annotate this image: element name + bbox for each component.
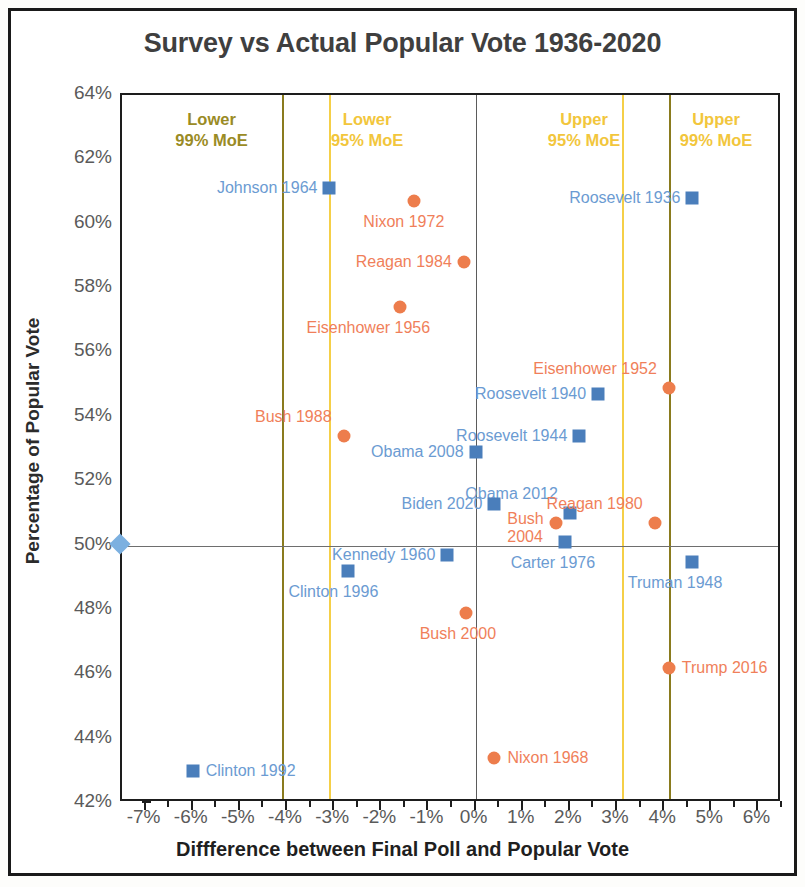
y-axis-tick-label: 48% [40, 597, 112, 619]
y-axis-tick-label: 56% [40, 339, 112, 361]
data-point[interactable] [559, 536, 572, 549]
data-point[interactable] [662, 381, 675, 394]
data-point-label: Carter 1976 [511, 554, 596, 572]
data-point[interactable] [394, 301, 407, 314]
data-point-label: Nixon 1968 [507, 749, 588, 767]
data-point-label: Roosevelt 1940 [475, 385, 586, 403]
data-point[interactable] [337, 430, 350, 443]
data-point[interactable] [186, 764, 199, 777]
data-point-label: Clinton 1992 [206, 762, 296, 780]
x-axis-minor-tick [450, 801, 452, 807]
data-point-label: Truman 1948 [628, 574, 723, 592]
data-point-label: Eisenhower 1956 [307, 319, 431, 337]
data-point[interactable] [460, 607, 473, 620]
data-point[interactable] [662, 661, 675, 674]
x-axis-minor-tick [497, 801, 499, 807]
y-axis-tick-label: 50% [40, 533, 112, 555]
data-point[interactable] [488, 497, 501, 510]
data-point[interactable] [573, 430, 586, 443]
data-point-label: Roosevelt 1944 [456, 427, 567, 445]
data-point-label: Kennedy 1960 [332, 546, 435, 564]
plot-area: Lower 99% MoELower 95% MoEUpper 95% MoEU… [120, 93, 780, 801]
moe-zone-label: Lower 99% MoE [132, 109, 292, 151]
data-point-label: Roosevelt 1936 [569, 189, 680, 207]
y-axis-tick-label: 42% [40, 790, 112, 812]
data-point-label: Reagan 1984 [356, 253, 452, 271]
x-axis-tick-mark [238, 801, 240, 810]
data-point-label: Bush 1988 [255, 408, 332, 426]
x-axis-tick-mark [285, 801, 287, 810]
data-point[interactable] [469, 446, 482, 459]
moe-zone-label: Lower 95% MoE [287, 109, 447, 151]
x-axis-tick-mark [709, 801, 711, 810]
moe-zone-label: Upper 99% MoE [636, 109, 796, 151]
x-axis-tick-mark [474, 801, 476, 810]
data-point-label: Nixon 1972 [363, 213, 444, 231]
y-axis-tick-label: 64% [40, 82, 112, 104]
x-axis-tick-mark [426, 801, 428, 810]
x-axis-minor-tick [780, 801, 782, 807]
data-point-label: Clinton 1996 [288, 583, 378, 601]
y-axis-tick-label: 62% [40, 146, 112, 168]
x-axis-minor-tick [639, 801, 641, 807]
data-point[interactable] [592, 388, 605, 401]
x-axis-minor-tick [591, 801, 593, 807]
y-axis-tick-label: 58% [40, 275, 112, 297]
data-point[interactable] [686, 555, 699, 568]
data-point-label: Bush 2004 [507, 510, 543, 546]
data-point[interactable] [408, 195, 421, 208]
x-axis-minor-tick [214, 801, 216, 807]
data-point-label: Eisenhower 1952 [533, 360, 657, 378]
x-axis-tick-mark [662, 801, 664, 810]
lower-99-moe [282, 95, 284, 799]
data-point[interactable] [457, 256, 470, 269]
data-point-label: Trump 2016 [682, 659, 768, 677]
x-axis-minor-tick [167, 801, 169, 807]
data-point-label: Obama 2008 [371, 443, 464, 461]
x-axis-tick-mark [379, 801, 381, 810]
y-axis-tick-label: 54% [40, 404, 112, 426]
data-point[interactable] [323, 182, 336, 195]
data-point[interactable] [648, 517, 661, 530]
data-point-label: Biden 2020 [401, 495, 482, 513]
chart-page: Survey vs Actual Popular Vote 1936-2020 … [0, 0, 805, 887]
x-axis-tick-mark [615, 801, 617, 810]
data-point[interactable] [488, 751, 501, 764]
x-axis-tick-mark [191, 801, 193, 810]
data-point[interactable] [549, 517, 562, 530]
data-point-label: Johnson 1964 [217, 179, 318, 197]
y-axis-tick-label: 60% [40, 211, 112, 233]
data-point[interactable] [342, 565, 355, 578]
data-point[interactable] [686, 191, 699, 204]
y-axis-tick-label: 46% [40, 661, 112, 683]
x-axis-minor-tick [733, 801, 735, 807]
y-axis-title: Percentage of Popular Vote [22, 161, 44, 721]
data-point-label: Bush 2000 [420, 625, 497, 643]
x-axis-tick-mark [332, 801, 334, 810]
y-axis-tick-label: 44% [40, 726, 112, 748]
data-point-label: Reagan 1980 [547, 495, 643, 513]
fifty-percent-line [122, 546, 778, 548]
x-axis-tick-mark [144, 801, 146, 810]
x-axis-tick-mark [756, 801, 758, 810]
x-axis-title: Diffference between Final Poll and Popul… [0, 838, 805, 861]
x-axis-tick-mark [568, 801, 570, 810]
y-axis-tick-label: 52% [40, 468, 112, 490]
x-axis-minor-tick [403, 801, 405, 807]
x-axis-minor-tick [356, 801, 358, 807]
x-axis-minor-tick [686, 801, 688, 807]
lower-95-moe [329, 95, 331, 799]
data-point[interactable] [441, 549, 454, 562]
x-axis-minor-tick [544, 801, 546, 807]
x-axis-minor-tick [261, 801, 263, 807]
x-axis-minor-tick [309, 801, 311, 807]
x-axis-tick-mark [521, 801, 523, 810]
page-title: Survey vs Actual Popular Vote 1936-2020 [0, 28, 805, 59]
